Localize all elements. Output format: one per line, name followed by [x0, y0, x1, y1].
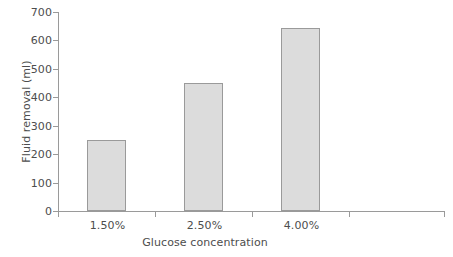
x-tick-label-2: 2.50% — [161, 220, 248, 232]
y-tick-label-300: 300 — [24, 121, 52, 132]
y-tick-label-100: 100 — [24, 178, 52, 189]
x-axis-title: Glucose concentration — [58, 236, 352, 249]
y-tick-label-600: 600 — [24, 35, 52, 46]
x-tick-label-1: 1.50% — [64, 220, 151, 232]
x-tick-mark-1 — [155, 212, 156, 217]
x-tick-mark-0 — [58, 212, 59, 217]
y-tick-label-200: 200 — [24, 149, 52, 160]
y-tick-label-0: 0 — [24, 206, 52, 217]
x-tick-mark-4 — [444, 212, 445, 217]
y-tick-label-700: 700 — [24, 7, 52, 18]
plot-area — [58, 12, 445, 211]
x-tick-mark-2 — [252, 212, 253, 217]
y-tick-label-500: 500 — [24, 64, 52, 75]
bar-4.00% — [281, 28, 320, 211]
y-axis-tick-labels: 700 600 500 400 300 200 100 0 — [22, 0, 52, 257]
y-tick-label-400: 400 — [24, 92, 52, 103]
bar-2.50% — [184, 83, 223, 211]
x-tick-mark-3 — [349, 212, 350, 217]
bar-chart: Fluid removal (ml) 700 600 500 400 300 2… — [0, 0, 453, 257]
x-tick-label-3: 4.00% — [258, 220, 345, 232]
bar-1.50% — [87, 140, 126, 211]
